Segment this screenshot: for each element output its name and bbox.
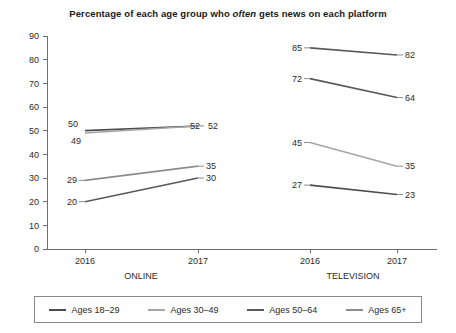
y-tick-label: 80 — [29, 55, 39, 65]
data-label: 85 — [292, 43, 302, 53]
series-line — [310, 185, 397, 194]
legend-swatch-icon — [247, 309, 264, 311]
legend-item-0[interactable]: Ages 18–29 — [47, 305, 121, 315]
legend-item-3[interactable]: Ages 65+ — [344, 305, 408, 315]
data-label: 27 — [292, 180, 302, 190]
y-tick-label: 60 — [29, 102, 39, 112]
legend-item-1[interactable]: Ages 30–49 — [146, 305, 220, 315]
x-tick-label: 2017 — [387, 256, 407, 266]
y-tick-label: 0 — [34, 244, 39, 254]
data-label: 35 — [206, 161, 216, 171]
data-label: 45 — [292, 138, 302, 148]
y-tick-label: 30 — [29, 173, 39, 183]
data-label: 35 — [405, 161, 415, 171]
panel-labels: ONLINETELEVISION — [124, 271, 379, 281]
data-label: 50 — [68, 119, 78, 129]
legend-item-2[interactable]: Ages 50–64 — [245, 305, 319, 315]
data-label: 72 — [292, 74, 302, 84]
series-line — [85, 178, 198, 202]
y-tick-label: 70 — [29, 79, 39, 89]
legend-label: Ages 18–29 — [71, 305, 119, 315]
y-tick-label: 10 — [29, 221, 39, 231]
x-tick-label: 2016 — [300, 256, 320, 266]
data-label: 52 — [208, 121, 218, 131]
y-tick-label: 40 — [29, 150, 39, 160]
panel-label-television: TELEVISION — [326, 271, 379, 281]
data-label: 29 — [67, 175, 77, 185]
data-label: 82 — [405, 50, 415, 60]
axes — [47, 36, 437, 249]
data-label: 64 — [405, 93, 415, 103]
x-tick-label: 2017 — [188, 256, 208, 266]
series-line — [310, 79, 397, 98]
y-tick-label: 20 — [29, 197, 39, 207]
series-line — [85, 166, 198, 180]
chart-plot-area: 0102030405060708090 2016201720162017 504… — [0, 0, 456, 296]
legend-label: Ages 30–49 — [170, 305, 218, 315]
data-label: 49 — [71, 136, 81, 146]
data-label: 30 — [206, 173, 216, 183]
series-line — [310, 143, 397, 167]
series-line — [310, 48, 397, 55]
legend-swatch-icon — [49, 309, 66, 311]
legend-label: Ages 65+ — [368, 305, 406, 315]
chart-page: Percentage of each age group who often g… — [0, 0, 456, 333]
y-tick-label: 50 — [29, 126, 39, 136]
series-lines — [85, 48, 397, 202]
y-axis-ticks: 0102030405060708090 — [29, 31, 47, 254]
chart-legend: Ages 18–29Ages 30–49Ages 50–64Ages 65+ — [34, 296, 422, 323]
legend-label: Ages 50–64 — [269, 305, 317, 315]
data-label: 20 — [67, 197, 77, 207]
data-point-labels: 50495252293520308572452782643523 — [67, 43, 415, 207]
y-tick-label: 90 — [29, 31, 39, 41]
legend-swatch-icon — [346, 309, 363, 311]
x-axis-ticks: 2016201720162017 — [75, 249, 407, 266]
x-tick-label: 2016 — [75, 256, 95, 266]
legend-swatch-icon — [148, 309, 165, 311]
data-label: 23 — [405, 190, 415, 200]
panel-label-online: ONLINE — [124, 271, 158, 281]
